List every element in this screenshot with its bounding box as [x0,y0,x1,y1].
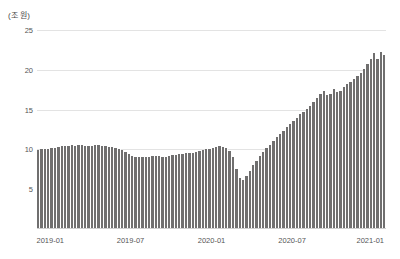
y-tick-label-15: 15 [7,105,33,114]
y-tick-label-20: 20 [7,65,33,74]
x-tick-label-2020-07: 2020-07 [278,236,306,245]
bar [383,55,386,229]
x-tick-label-2019-07: 2019-07 [117,236,145,245]
chart-screenshot: (조 원) 252015105 2019-012019-072020-01202… [0,0,400,259]
axis-baseline [37,228,386,229]
y-tick-label-25: 25 [7,26,33,35]
y-axis-unit-label: (조 원) [8,9,30,20]
x-tick-label-2021-01: 2021-01 [357,236,385,245]
x-tick-label-2019-01: 2019-01 [36,236,64,245]
y-tick-label-10: 10 [7,145,33,154]
plot-area [37,30,386,229]
x-tick-label-2020-01: 2020-01 [198,236,226,245]
bar-series [37,30,386,229]
y-tick-label-5: 5 [7,185,33,194]
